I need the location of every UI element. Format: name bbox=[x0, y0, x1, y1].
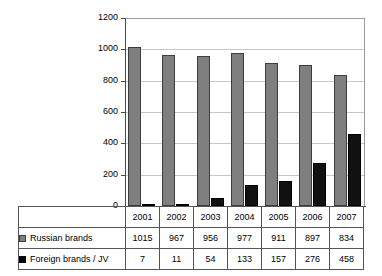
table-header-year: 2001 bbox=[126, 207, 160, 228]
bar-russian-brands bbox=[128, 47, 141, 206]
table-header-year: 2003 bbox=[194, 207, 228, 228]
table-value-cell: 956 bbox=[194, 228, 228, 249]
table-value-cell: 276 bbox=[296, 249, 330, 270]
y-axis-tick-label: 800 bbox=[78, 76, 118, 85]
table-corner-cell bbox=[19, 207, 126, 228]
y-axis-line bbox=[125, 18, 126, 207]
table-row: Foreign brands / JV71154133157276458 bbox=[19, 249, 364, 270]
table-value-cell: 133 bbox=[228, 249, 262, 270]
black-square-icon bbox=[19, 256, 26, 263]
bar-foreign-brands bbox=[279, 181, 292, 206]
bar-foreign-brands bbox=[313, 163, 326, 206]
y-axis-tick-label: 1200 bbox=[78, 13, 118, 22]
bar-group bbox=[125, 18, 159, 206]
bar-group bbox=[262, 18, 296, 206]
bar-group bbox=[331, 18, 365, 206]
y-axis-tick-label: 600 bbox=[78, 107, 118, 116]
table-value-cell: 157 bbox=[262, 249, 296, 270]
table-value-cell: 834 bbox=[330, 228, 364, 249]
table-value-cell: 54 bbox=[194, 249, 228, 270]
table-value-cell: 897 bbox=[296, 228, 330, 249]
bar-russian-brands bbox=[231, 53, 244, 206]
bar-group bbox=[228, 18, 262, 206]
table-header-year: 2007 bbox=[330, 207, 364, 228]
legend-label: Russian brands bbox=[30, 233, 93, 243]
bar-chart-figure: 120010008006004002000 200120022003200420… bbox=[0, 0, 382, 276]
bar-group bbox=[194, 18, 228, 206]
bar-foreign-brands bbox=[348, 134, 361, 206]
table-value-cell: 11 bbox=[160, 249, 194, 270]
bar-foreign-brands bbox=[211, 198, 224, 206]
bar-russian-brands bbox=[334, 75, 347, 206]
y-axis-tick-label: 200 bbox=[78, 170, 118, 179]
table-row: Russian brands1015967956977911897834 bbox=[19, 228, 364, 249]
table-header-year: 2004 bbox=[228, 207, 262, 228]
bar-russian-brands bbox=[162, 55, 175, 206]
table-header-year: 2002 bbox=[160, 207, 194, 228]
table-header-year: 2005 bbox=[262, 207, 296, 228]
plot-area bbox=[125, 18, 365, 206]
table-header-year: 2006 bbox=[296, 207, 330, 228]
legend-cell: Russian brands bbox=[19, 228, 126, 249]
data-table: 2001200220032004200520062007Russian bran… bbox=[18, 206, 364, 270]
y-axis-tick-label: 1000 bbox=[78, 44, 118, 53]
table-value-cell: 977 bbox=[228, 228, 262, 249]
bar-foreign-brands bbox=[245, 185, 258, 206]
bar-russian-brands bbox=[299, 65, 312, 206]
bar-russian-brands bbox=[197, 56, 210, 206]
bar-group bbox=[296, 18, 330, 206]
gray-square-icon bbox=[19, 235, 26, 242]
table-value-cell: 967 bbox=[160, 228, 194, 249]
legend-label: Foreign brands / JV bbox=[30, 254, 109, 264]
bar-russian-brands bbox=[265, 63, 278, 206]
data-table-body: 2001200220032004200520062007Russian bran… bbox=[19, 207, 364, 270]
table-row-years: 2001200220032004200520062007 bbox=[19, 207, 364, 228]
table-value-cell: 911 bbox=[262, 228, 296, 249]
bar-group bbox=[159, 18, 193, 206]
table-value-cell: 458 bbox=[330, 249, 364, 270]
table-value-cell: 7 bbox=[126, 249, 160, 270]
table-value-cell: 1015 bbox=[126, 228, 160, 249]
y-axis-tick-label: 400 bbox=[78, 138, 118, 147]
legend-cell: Foreign brands / JV bbox=[19, 249, 126, 270]
